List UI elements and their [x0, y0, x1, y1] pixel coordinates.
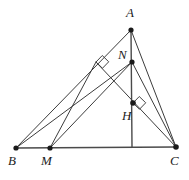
- segment-altitude-C-to-AB: [96, 62, 176, 147]
- segment-altitude-A-to-BC: [131, 30, 132, 147]
- segment-cevian-B-to-N: [16, 62, 132, 148]
- geometry-canvas: [0, 0, 189, 180]
- vertex-point-C: [173, 144, 179, 150]
- point-label-A: A: [126, 6, 134, 19]
- vertex-point-M: [47, 145, 52, 150]
- point-label-M: M: [41, 154, 52, 167]
- vertex-point-A: [128, 27, 133, 32]
- geometry-figure: A N H B M C: [0, 0, 189, 180]
- point-label-N: N: [118, 48, 127, 61]
- point-label-B: B: [8, 154, 16, 167]
- segment-side-BC: [16, 147, 176, 148]
- vertex-point-N: [129, 59, 134, 64]
- segment-side-AC: [131, 30, 176, 147]
- right-angle-mark-at-F: [96, 56, 109, 69]
- point-label-H: H: [122, 109, 131, 122]
- segment-side-AB: [16, 30, 131, 148]
- segment-N-to-C: [132, 62, 176, 147]
- point-label-C: C: [170, 154, 179, 167]
- vertex-point-B: [13, 145, 18, 150]
- vertex-point-H: [130, 100, 136, 106]
- segment-cevian-M-to-N: [50, 62, 132, 148]
- segment-cevian-M-to-F: [50, 62, 96, 148]
